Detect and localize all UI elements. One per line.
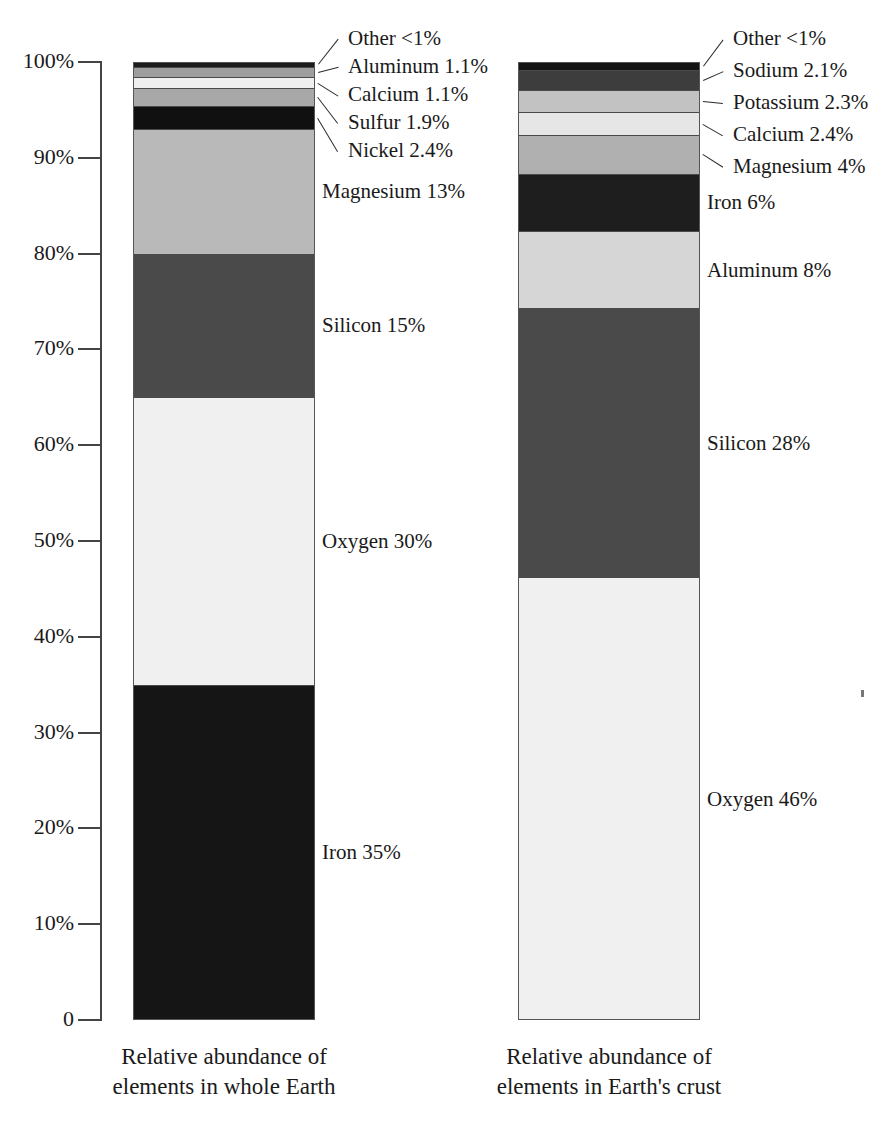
caption-whole-earth: Relative abundance of elements in whole …	[74, 1042, 374, 1102]
chart-canvas: 100%90%80%70%60%50%40%30%20%10%0 Other <…	[0, 0, 891, 1126]
y-axis-tick-label: 10%	[2, 912, 74, 934]
y-axis-tick-label: 90%	[2, 146, 74, 168]
y-axis-tick	[78, 732, 102, 734]
bar-segment-iron	[134, 686, 314, 1020]
segment-callout-label-other: Other <1%	[733, 28, 826, 49]
y-axis-tick-label: 70%	[2, 337, 74, 359]
segment-label-iron: Iron 6%	[707, 192, 775, 213]
y-axis-tick-label: 40%	[2, 625, 74, 647]
bar-segment-oxygen	[134, 398, 314, 685]
bar-segment-nickel	[134, 107, 314, 130]
y-axis-tick	[78, 923, 102, 925]
y-axis-tick	[78, 827, 102, 829]
caption-earths-crust: Relative abundance of elements in Earth'…	[459, 1042, 759, 1102]
scan-artifact-speck	[861, 690, 864, 697]
leader-line-potassium	[703, 101, 723, 104]
leader-line-sulfur	[317, 97, 338, 124]
bar-segment-aluminum	[134, 68, 314, 79]
leader-line-sodium	[703, 71, 723, 81]
segment-callout-label-nickel: Nickel 2.4%	[348, 140, 453, 161]
segment-label-silicon: Silicon 15%	[322, 315, 425, 336]
bar-earths-crust	[518, 62, 700, 1020]
leader-line-other	[703, 39, 724, 66]
bar-segment-aluminum	[519, 232, 699, 309]
bar-segment-potassium	[519, 91, 699, 113]
leader-line-other	[318, 39, 339, 65]
caption-line-2: elements in Earth's crust	[459, 1072, 759, 1102]
y-axis-tick-label: 20%	[2, 816, 74, 838]
leader-line-nickel	[317, 118, 338, 152]
bar-segment-silicon	[134, 255, 314, 399]
y-axis-tick	[78, 61, 102, 63]
y-axis-tick-label: 50%	[2, 529, 74, 551]
segment-label-oxygen: Oxygen 46%	[707, 789, 817, 810]
caption-line-1: Relative abundance of	[74, 1042, 374, 1072]
bar-segment-iron	[519, 175, 699, 233]
y-axis-tick	[78, 157, 102, 159]
bar-segment-sodium	[519, 71, 699, 91]
segment-callout-label-sulfur: Sulfur 1.9%	[348, 112, 450, 133]
y-axis-tick	[78, 1019, 102, 1021]
segment-label-aluminum: Aluminum 8%	[707, 260, 831, 281]
caption-line-1: Relative abundance of	[459, 1042, 759, 1072]
segment-label-silicon: Silicon 28%	[707, 433, 810, 454]
caption-line-2: elements in whole Earth	[74, 1072, 374, 1102]
y-axis-tick-label: 80%	[2, 242, 74, 264]
bar-segment-calcium	[519, 113, 699, 136]
y-axis-tick-label: 0	[2, 1008, 74, 1030]
bar-segment-magnesium	[519, 136, 699, 174]
segment-callout-label-potassium: Potassium 2.3%	[733, 92, 868, 113]
y-axis-tick	[78, 348, 102, 350]
bar-whole-earth	[133, 62, 315, 1020]
y-axis-tick	[78, 444, 102, 446]
segment-callout-label-aluminum: Aluminum 1.1%	[348, 56, 488, 77]
bar-segment-other	[519, 63, 699, 71]
bar-segment-silicon	[519, 309, 699, 578]
bar-segment-sulfur	[134, 89, 314, 107]
y-axis-tick	[78, 253, 102, 255]
bar-segment-magnesium	[134, 130, 314, 255]
segment-callout-label-other: Other <1%	[348, 28, 441, 49]
y-axis-tick-label: 60%	[2, 433, 74, 455]
bar-segment-calcium	[134, 78, 314, 89]
segment-callout-label-calcium: Calcium 1.1%	[348, 84, 468, 105]
y-axis-tick	[78, 636, 102, 638]
y-axis-tick-label: 100%	[2, 50, 74, 72]
segment-callout-label-calcium: Calcium 2.4%	[733, 124, 853, 145]
segment-label-magnesium: Magnesium 13%	[322, 181, 465, 202]
segment-label-oxygen: Oxygen 30%	[322, 531, 432, 552]
y-axis-tick-label: 30%	[2, 721, 74, 743]
segment-callout-label-sodium: Sodium 2.1%	[733, 60, 847, 81]
segment-label-iron: Iron 35%	[322, 842, 401, 863]
segment-callout-label-magnesium: Magnesium 4%	[733, 156, 865, 177]
leader-line-calcium	[317, 83, 338, 96]
leader-line-calcium	[703, 124, 723, 136]
leader-line-aluminum	[318, 67, 338, 73]
y-axis-tick	[78, 540, 102, 542]
bar-segment-oxygen	[519, 578, 699, 1020]
leader-line-magnesium	[702, 154, 723, 167]
